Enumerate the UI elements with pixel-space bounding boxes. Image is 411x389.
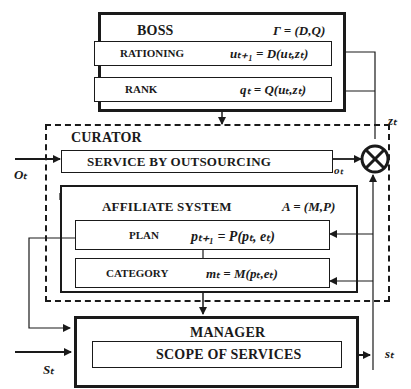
boss-title: BOSS — [137, 23, 174, 39]
category-block: CATEGORY mₜ = M(pₜ,eₜ) — [75, 258, 330, 288]
service-block: SERVICE BY OUTSOURCING — [61, 150, 333, 173]
combiner-icon — [360, 144, 390, 174]
plan-label: PLAN — [129, 229, 159, 241]
plan-formula: pₜ₊₁ = P(pₜ, eₜ) — [191, 228, 275, 245]
rationing-formula: uₜ₊₁ = D(uₜ,zₜ) — [230, 46, 308, 62]
affiliate-title: AFFILIATE SYSTEM — [102, 199, 232, 215]
s-output-variable: sₜ — [385, 346, 394, 362]
rationing-label: RATIONING — [120, 47, 184, 59]
o-input-variable: Oₜ — [14, 167, 27, 183]
rank-formula: qₜ = Q(uₜ,zₜ) — [240, 82, 306, 98]
boss-formula: Γ = (D,Q) — [273, 23, 325, 39]
rank-label: RANK — [125, 83, 157, 95]
o-output-variable: oₜ — [334, 164, 343, 177]
curator-title: CURATOR — [71, 130, 142, 146]
s-input-variable: Sₜ — [43, 362, 54, 378]
affiliate-formula: A = (M,P) — [282, 199, 335, 215]
service-label: SERVICE BY OUTSOURCING — [87, 154, 271, 170]
category-label: CATEGORY — [106, 267, 168, 279]
manager-title: MANAGER — [190, 325, 265, 341]
rank-block: RANK qₜ = Q(uₜ,zₜ) — [94, 77, 332, 102]
scope-block: SCOPE OF SERVICES — [92, 341, 342, 368]
plan-block: PLAN pₜ₊₁ = P(pₜ, eₜ) — [75, 220, 330, 250]
category-formula: mₜ = M(pₜ,eₜ) — [206, 266, 278, 282]
scope-label: SCOPE OF SERVICES — [156, 347, 302, 363]
rationing-block: RATIONING uₜ₊₁ = D(uₜ,zₜ) — [94, 41, 332, 66]
